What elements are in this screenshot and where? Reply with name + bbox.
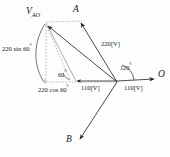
diagram-canvas <box>0 0 170 157</box>
cos-component-degree: ° <box>67 84 69 90</box>
arc-sin-component <box>36 24 45 82</box>
label-vao-subscript: AO <box>32 11 40 18</box>
label-point-vao: VAO <box>26 7 40 18</box>
angle-120-degree: ° <box>129 62 131 68</box>
vector-a <box>81 23 117 82</box>
label-point-a: A <box>73 5 79 15</box>
label-angle-120: 120° <box>120 63 131 71</box>
dashed-top-horizontal <box>46 21 82 22</box>
label-angle-60: 60° <box>58 70 66 78</box>
label-point-o: O <box>158 70 165 80</box>
phasor-diagram-figure: VAO A B O 220 sin 60° 220 cos 60° 220[V]… <box>0 0 170 157</box>
label-cos-component: 220 cos 60° <box>38 85 69 94</box>
angle-60-degree: ° <box>64 69 66 75</box>
cos-component-text: 220 cos 60 <box>38 86 67 93</box>
label-right-110: 110[V] <box>124 85 143 92</box>
angle-120-value: 120 <box>120 64 129 71</box>
sin-component-degree: ° <box>29 43 31 49</box>
vector-o-axis <box>117 79 154 81</box>
sin-component-text: 220 sin 60 <box>2 45 29 52</box>
label-sin-component: 220 sin 60° <box>2 44 32 53</box>
label-phase-a-magnitude: 220[V] <box>101 41 120 48</box>
label-left-110: 110[V] <box>81 85 100 92</box>
label-point-b: B <box>66 135 72 145</box>
